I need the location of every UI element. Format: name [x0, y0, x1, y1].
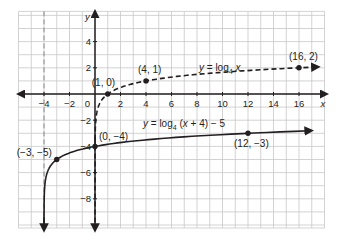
svg-text:(1, 0): (1, 0)	[92, 77, 115, 88]
svg-text:(12, −3): (12, −3)	[234, 138, 269, 149]
svg-text:y = log4 (x + 4) − 5: y = log4 (x + 4) − 5	[142, 118, 225, 131]
svg-text:0: 0	[85, 98, 90, 109]
svg-text:(4, 1): (4, 1)	[138, 64, 161, 75]
svg-text:(16, 2): (16, 2)	[289, 51, 318, 62]
svg-text:14: 14	[268, 98, 279, 109]
svg-text:(−3, −5): (−3, −5)	[17, 147, 52, 158]
svg-text:4: 4	[86, 36, 91, 47]
svg-text:4: 4	[143, 98, 148, 109]
svg-text:8: 8	[194, 98, 199, 109]
svg-text:(0, −4): (0, −4)	[99, 131, 128, 142]
svg-text:x: x	[320, 98, 327, 109]
axes: −4−224681012141642−2−4−6−80xy	[21, 11, 327, 226]
svg-text:2: 2	[86, 62, 91, 73]
svg-text:6: 6	[169, 98, 174, 109]
svg-text:10: 10	[217, 98, 228, 109]
log-graph: −4−224681012141642−2−4−6−80xy (1, 0)(4, …	[0, 0, 343, 237]
svg-text:−8: −8	[80, 193, 91, 204]
svg-text:12: 12	[243, 98, 254, 109]
svg-text:−2: −2	[64, 98, 75, 109]
svg-text:−6: −6	[80, 167, 91, 178]
svg-text:y: y	[84, 11, 91, 22]
svg-text:−2: −2	[80, 115, 91, 126]
svg-text:−4: −4	[39, 98, 50, 109]
svg-text:2: 2	[118, 98, 123, 109]
svg-text:16: 16	[294, 98, 305, 109]
svg-text:−4: −4	[80, 141, 91, 152]
